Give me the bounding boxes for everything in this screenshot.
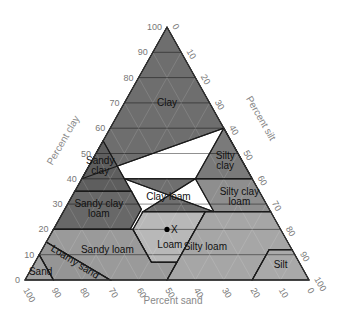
silt-tick: 90 bbox=[298, 250, 312, 264]
sample-point-label: X bbox=[171, 224, 178, 235]
sand-tick: 0 bbox=[305, 286, 316, 295]
clay-tick: 60 bbox=[95, 123, 105, 133]
sand-axis-title: Percent sand bbox=[144, 295, 203, 306]
silt-tick: 40 bbox=[227, 123, 241, 137]
region-label: Silty loam bbox=[184, 241, 227, 252]
silt-tick: 70 bbox=[270, 199, 284, 213]
silt-tick: 50 bbox=[241, 149, 255, 163]
clay-tick: 0 bbox=[15, 275, 20, 285]
silt-tick: 10 bbox=[184, 47, 198, 61]
region-label: Silt bbox=[274, 259, 288, 270]
clay-tick: 10 bbox=[24, 250, 34, 260]
clay-tick: 70 bbox=[109, 98, 119, 108]
region-label: Sand bbox=[29, 266, 52, 277]
sand-tick: 30 bbox=[220, 286, 234, 300]
region-label: clay bbox=[216, 160, 234, 171]
sand-tick: 100 bbox=[21, 286, 37, 304]
region-label: Clay loam bbox=[146, 191, 190, 202]
soil-texture-triangle: ClaySandyclaySiltyclaySandy clayloamClay… bbox=[0, 0, 338, 322]
region-label: loam bbox=[229, 196, 251, 207]
clay-tick: 100 bbox=[147, 22, 162, 32]
sand-tick: 20 bbox=[248, 286, 262, 300]
clay-tick: 80 bbox=[124, 73, 134, 83]
triangle-diagram: ClaySandyclaySiltyclaySandy clayloamClay… bbox=[0, 0, 338, 322]
clay-tick: 90 bbox=[138, 47, 148, 57]
sand-tick: 90 bbox=[50, 286, 64, 300]
clay-tick: 20 bbox=[38, 224, 48, 234]
region-label: loam bbox=[88, 208, 110, 219]
region-label: clay bbox=[91, 165, 109, 176]
sample-point-marker bbox=[164, 227, 169, 232]
silt-tick: 0 bbox=[170, 22, 181, 31]
clay-tick: 40 bbox=[67, 174, 77, 184]
silt-tick: 80 bbox=[284, 224, 298, 238]
silt-tick: 30 bbox=[213, 98, 227, 112]
sand-tick: 10 bbox=[277, 286, 291, 300]
clay-tick: 30 bbox=[53, 199, 63, 209]
clay-tick: 50 bbox=[81, 149, 91, 159]
clay-axis-title: Percent clay bbox=[44, 114, 81, 167]
region-label: Loam bbox=[157, 239, 182, 250]
sand-tick: 80 bbox=[78, 286, 92, 300]
region-label: Sandy loam bbox=[81, 244, 134, 255]
silt-tick: 20 bbox=[199, 73, 213, 87]
silt-axis-title: Percent silt bbox=[244, 94, 278, 143]
sand-tick: 70 bbox=[106, 286, 120, 300]
region-label: Clay bbox=[157, 97, 177, 108]
